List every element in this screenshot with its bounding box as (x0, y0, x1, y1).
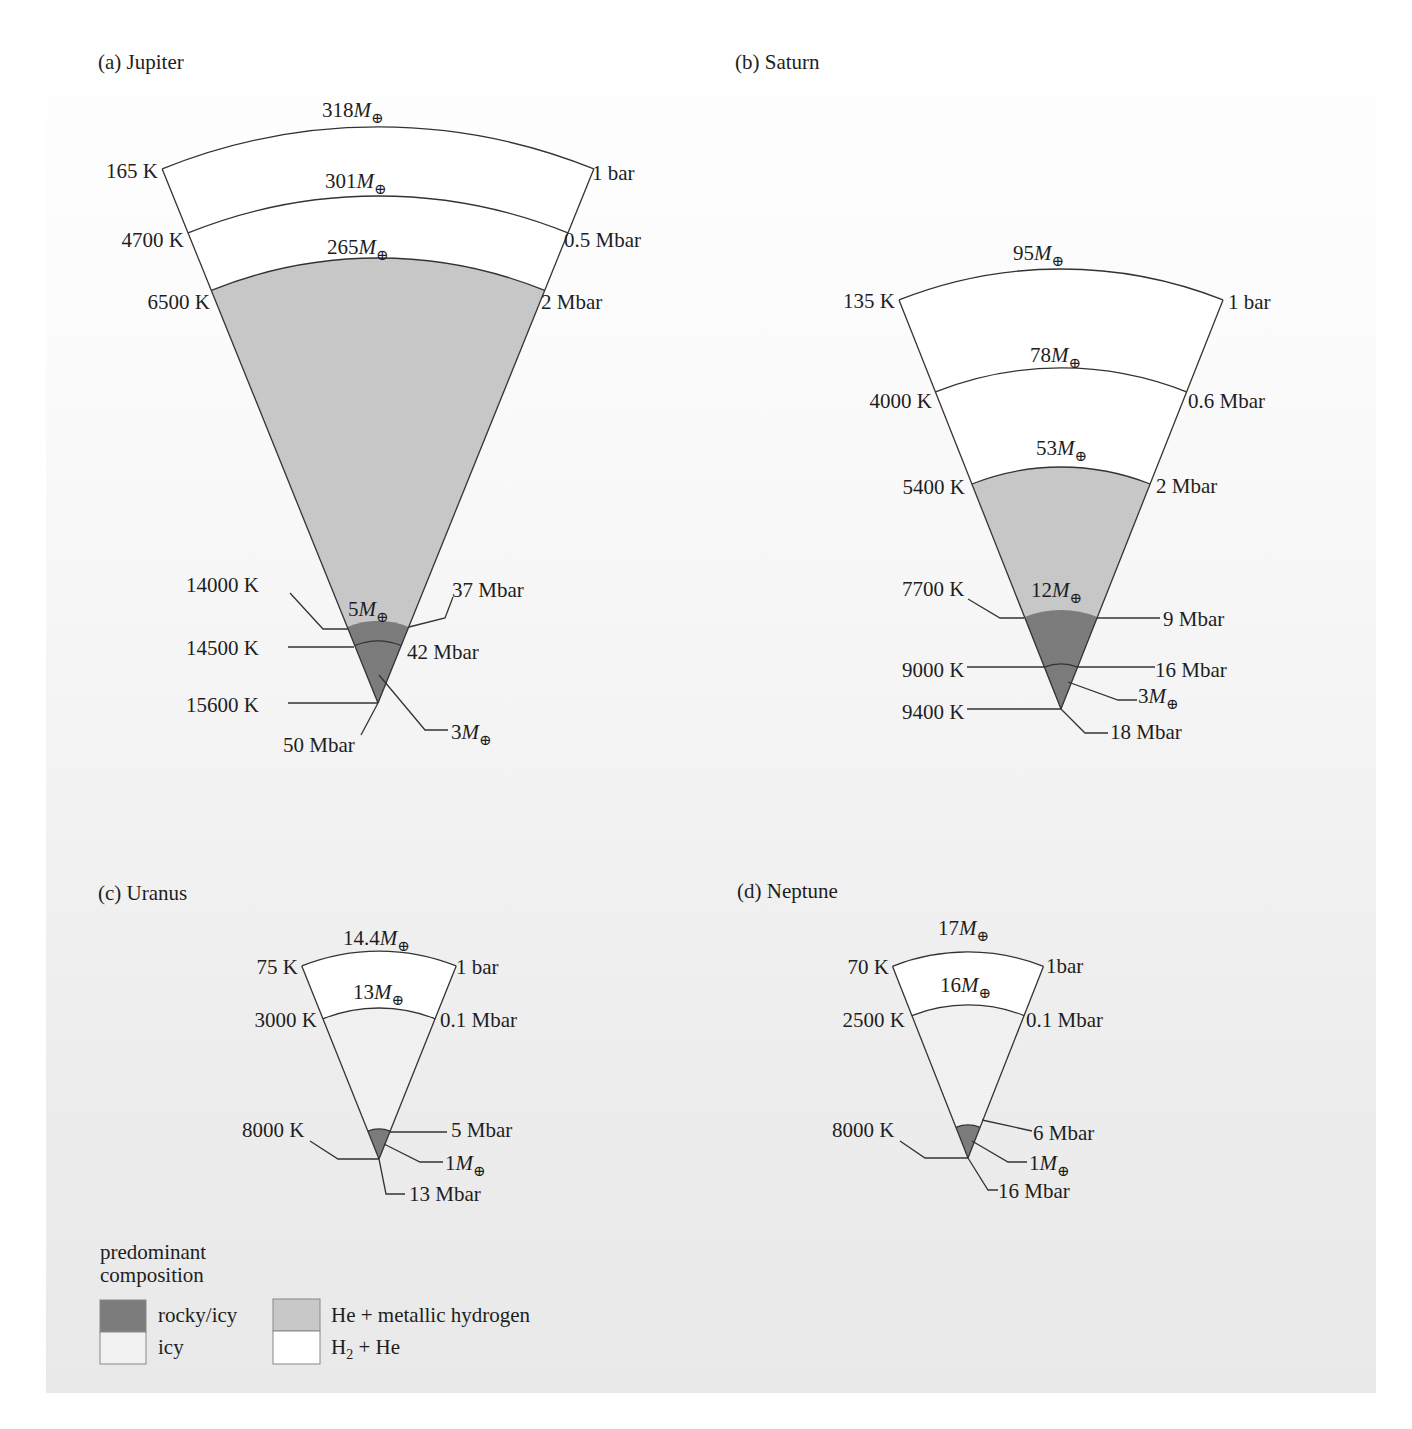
pressure-label: 9 Mbar (1163, 607, 1224, 631)
title-saturn: (b) Saturn (735, 50, 820, 74)
pressure-label: 50 Mbar (283, 733, 355, 757)
temperature-label: 8000 K (832, 1118, 894, 1142)
legend-label-h2-he: H2 + He (331, 1335, 400, 1362)
pressure-label: 6 Mbar (1033, 1121, 1094, 1145)
mass-label: 3M⊕ (451, 720, 492, 748)
leader-line (968, 599, 1024, 618)
layer-texture (1044, 664, 1077, 709)
pressure-label: 16 Mbar (1155, 658, 1227, 682)
legend-label-rocky-icy: rocky/icy (158, 1303, 238, 1327)
pressure-label: 2 Mbar (1156, 474, 1217, 498)
leader-line (982, 1120, 1032, 1131)
legend-swatch-h2-he (273, 1331, 320, 1364)
pressure-label: 37 Mbar (452, 578, 524, 602)
pressure-label: 2 Mbar (541, 290, 602, 314)
pressure-label: 18 Mbar (1110, 720, 1182, 744)
pressure-label: 0.5 Mbar (564, 228, 641, 252)
temperature-label: 3000 K (255, 1008, 317, 1032)
pressure-label: 13 Mbar (409, 1182, 481, 1206)
pressure-label: 1 bar (456, 955, 499, 979)
legend-title: composition (100, 1263, 204, 1287)
mass-label: 17M⊕ (938, 916, 989, 944)
temperature-label: 9000 K (902, 658, 964, 682)
temperature-label: 135 K (843, 289, 895, 313)
leader-line (310, 1141, 379, 1159)
temperature-label: 2500 K (843, 1008, 905, 1032)
pressure-label: 0.1 Mbar (1026, 1008, 1103, 1032)
legend-swatch-he-metallic-hydrogen (273, 1299, 320, 1331)
temperature-label: 5400 K (903, 475, 965, 499)
legend: predominant composition rocky/icy icy He… (100, 1240, 531, 1364)
temperature-label: 7700 K (902, 577, 964, 601)
pressure-label: 0.6 Mbar (1188, 389, 1265, 413)
mass-label: 3M⊕ (1138, 684, 1179, 712)
mass-label: 1M⊕ (1029, 1151, 1070, 1179)
mass-label: 95M⊕ (1013, 241, 1064, 269)
title-uranus: (c) Uranus (98, 881, 187, 905)
leader-line (379, 1159, 405, 1194)
layer-texture (956, 1125, 980, 1158)
temperature-label: 70 K (848, 955, 889, 979)
planet-interiors-figure: (a) Jupiter (b) Saturn (c) Uranus (d) Ne… (0, 0, 1412, 1429)
leader-line (384, 1144, 443, 1162)
pressure-label: 1 bar (1228, 290, 1271, 314)
legend-label-icy: icy (158, 1335, 184, 1359)
leader-line (1068, 682, 1137, 700)
pressure-label: 5 Mbar (451, 1118, 512, 1142)
temperature-label: 4700 K (122, 228, 184, 252)
temperature-label: 6500 K (148, 290, 210, 314)
mass-label: 14.4M⊕ (343, 926, 410, 954)
pressure-label: 42 Mbar (407, 640, 479, 664)
temperature-label: 14500 K (186, 636, 259, 660)
temperature-label: 8000 K (242, 1118, 304, 1142)
leader-line (361, 703, 378, 735)
mass-label: 318M⊕ (322, 98, 384, 126)
mass-label: 1M⊕ (445, 1151, 486, 1179)
temperature-label: 14000 K (186, 573, 259, 597)
temperature-label: 15600 K (186, 693, 259, 717)
title-jupiter: (a) Jupiter (98, 50, 184, 74)
legend-title: predominant (100, 1240, 206, 1264)
leader-line (1061, 709, 1108, 733)
pressure-label: 0.1 Mbar (440, 1008, 517, 1032)
legend-label-he-metallic-hydrogen: He + metallic hydrogen (331, 1303, 531, 1327)
title-neptune: (d) Neptune (737, 879, 838, 903)
leader-line (972, 1141, 1027, 1162)
pressure-label: 1 bar (592, 161, 635, 185)
pressure-label: 16 Mbar (998, 1179, 1070, 1203)
layer-texture (368, 1129, 390, 1159)
pressure-label: 1bar (1046, 954, 1083, 978)
temperature-label: 165 K (106, 159, 158, 183)
temperature-label: 4000 K (870, 389, 932, 413)
leader-line (968, 1158, 998, 1190)
legend-swatch-rocky-icy (100, 1300, 146, 1332)
legend-swatch-icy (100, 1332, 146, 1364)
leader-line (900, 1141, 968, 1158)
temperature-label: 75 K (257, 955, 298, 979)
temperature-label: 9400 K (902, 700, 964, 724)
leader-line (379, 675, 448, 730)
